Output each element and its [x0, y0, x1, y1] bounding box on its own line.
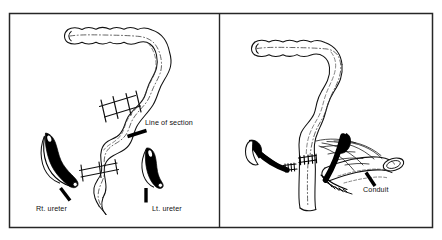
label-conduit: Conduit [363, 185, 388, 194]
label-lt-ureter: Lt. ureter [152, 204, 182, 213]
label-rt-ureter: Rt. ureter [36, 204, 67, 213]
label-line-of-section: Line of section [145, 118, 193, 127]
figure-container: Line of section Rt. ureter Lt. ureter [0, 0, 442, 240]
illustration-canvas: Line of section Rt. ureter Lt. ureter [0, 0, 442, 240]
